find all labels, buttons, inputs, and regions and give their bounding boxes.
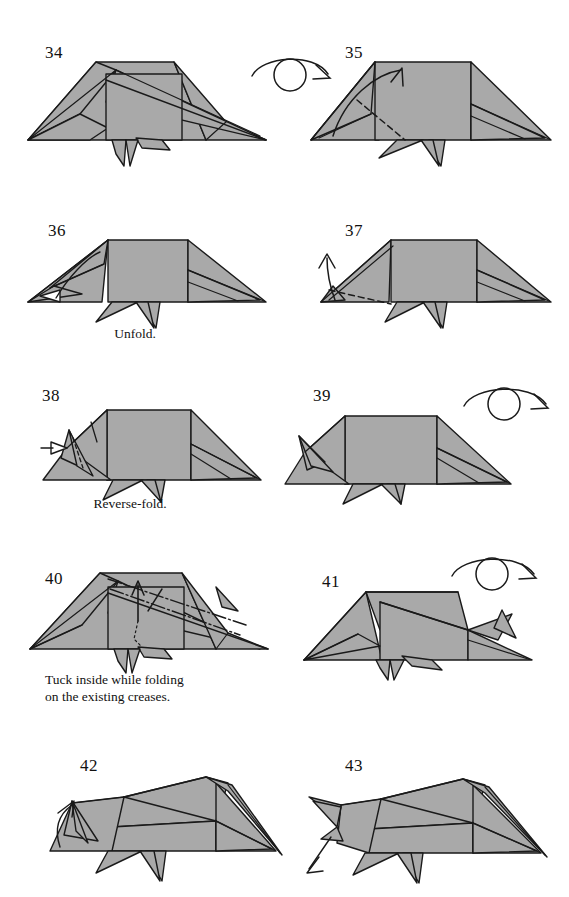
fold-arrow-shaft: [309, 837, 331, 869]
paper-leg-front: [96, 851, 142, 873]
paper-body-lower: [112, 821, 216, 851]
turnover-circle: [274, 59, 306, 91]
paper-right-spike: [216, 587, 238, 611]
origami-diagram-page: 34: [0, 0, 569, 897]
paper-body-top: [345, 416, 437, 484]
figure-36: [20, 228, 272, 330]
paper-leg-front: [343, 484, 383, 504]
figure-39: [285, 392, 547, 504]
paper-leg-front: [353, 853, 399, 875]
paper-body-top: [107, 410, 191, 480]
figure-37: [305, 228, 557, 330]
paper-leg-front: [379, 140, 423, 158]
caption-step-36: Unfold.: [85, 326, 185, 343]
paper-leg-front: [96, 302, 138, 322]
paper-leg-front: [385, 302, 425, 322]
figure-41: [292, 568, 554, 680]
figure-35: [305, 48, 557, 168]
caption-step-40: Tuck inside while folding on the existin…: [45, 672, 225, 706]
paper-center-panel: [108, 240, 188, 302]
paper-body-lower: [369, 823, 473, 853]
caption-step-38: Reverse-fold.: [60, 496, 200, 513]
figure-34: [20, 48, 270, 168]
paper-foot-detail: [390, 660, 404, 680]
paper-leg-front: [112, 140, 126, 166]
figure-43: [295, 755, 563, 883]
figure-40: [20, 563, 278, 675]
paper-foot-detail: [128, 649, 140, 673]
paper-foot-detail: [126, 140, 138, 166]
paper-leg-front: [114, 649, 128, 673]
figure-42: [20, 755, 288, 883]
figure-38: [15, 392, 273, 504]
paper-leg-front: [376, 660, 390, 680]
paper-center-panel: [391, 240, 477, 302]
